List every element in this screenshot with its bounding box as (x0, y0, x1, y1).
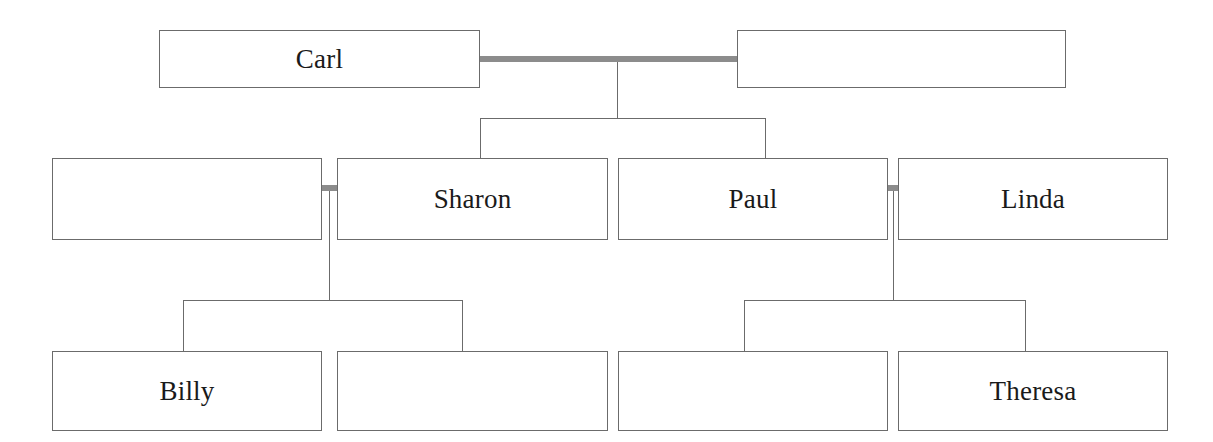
person-box-billy[interactable]: Billy (52, 351, 322, 431)
person-box-empty-g3-p2[interactable] (337, 351, 608, 431)
person-box-empty-g3-p3[interactable] (618, 351, 888, 431)
connector-sibling-bar-3 (744, 300, 1025, 301)
person-box-empty-g2-p1[interactable] (52, 158, 322, 240)
person-box-carl[interactable]: Carl (159, 30, 480, 88)
person-name-label: Linda (1001, 186, 1065, 213)
person-box-empty-g1-p2[interactable] (737, 30, 1066, 88)
person-name-label: Billy (159, 378, 214, 405)
marriage-line-marriage-1 (480, 56, 737, 62)
connector-drop-m3 (893, 188, 894, 300)
family-tree-canvas: CarlSharonPaulLindaBillyTheresa (0, 0, 1213, 442)
person-box-sharon[interactable]: Sharon (337, 158, 608, 240)
person-name-label: Theresa (990, 378, 1077, 405)
connector-stub-g3p3 (744, 300, 745, 351)
connector-stub-billy (183, 300, 184, 351)
connector-stub-theresa (1025, 300, 1026, 351)
person-name-label: Paul (729, 186, 778, 213)
connector-stub-sharon (480, 118, 481, 158)
person-name-label: Carl (296, 46, 343, 73)
connector-drop-m2 (329, 188, 330, 300)
connector-stub-g3p2 (462, 300, 463, 351)
person-box-theresa[interactable]: Theresa (898, 351, 1168, 431)
connector-sibling-bar-1 (480, 118, 765, 119)
connector-sibling-bar-2 (183, 300, 462, 301)
person-box-linda[interactable]: Linda (898, 158, 1168, 240)
marriage-line-marriage-2 (322, 185, 337, 191)
person-name-label: Sharon (434, 186, 512, 213)
person-box-paul[interactable]: Paul (618, 158, 888, 240)
connector-drop-m1 (617, 59, 618, 118)
connector-stub-paul (765, 118, 766, 158)
